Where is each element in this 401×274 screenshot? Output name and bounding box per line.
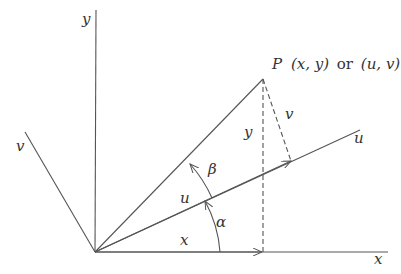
point-uv: (u, v) <box>361 55 401 73</box>
v-component-label: v <box>285 105 294 123</box>
v-axis <box>25 132 95 252</box>
point-p-label: P (x, y) or (u, v) <box>271 55 400 73</box>
alpha-label: α <box>216 213 226 231</box>
rotation-diagram: y x v u P (x, y) or (u, v) y v β u α x <box>0 0 401 274</box>
point-connector: or <box>337 55 354 73</box>
op-line <box>95 79 263 252</box>
beta-label: β <box>207 160 217 178</box>
y-component-label: y <box>243 123 253 141</box>
point-name: P <box>271 55 283 73</box>
point-xy: (x, y) <box>291 55 329 73</box>
x-axis-label: x <box>374 250 383 268</box>
v-axis-label: v <box>16 137 25 155</box>
x-component-label: x <box>180 231 189 249</box>
u-component-label: u <box>180 189 190 207</box>
u-component-arrow <box>95 161 291 252</box>
y-axis <box>95 10 96 252</box>
y-axis-label: y <box>81 10 91 28</box>
u-axis-label: u <box>354 129 364 147</box>
